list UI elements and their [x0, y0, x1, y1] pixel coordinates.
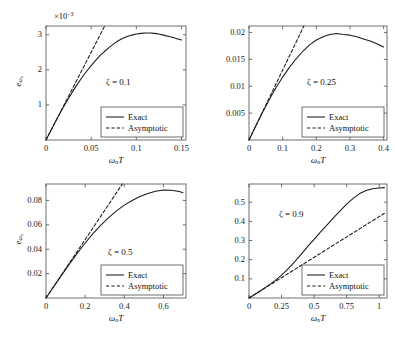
y-tick-label: 0.01: [209, 82, 245, 91]
panel-zeta-0p5: 00.20.40.60.020.040.060.08ωnTeωnζ = 0.5E…: [0, 170, 197, 341]
zeta-annotation: ζ = 0.5: [108, 248, 133, 257]
figure-panel-grid: 00.050.10.15123ωnTeωn×10−3ζ = 0.1ExactAs…: [0, 0, 395, 341]
panel-zeta-0p1: 00.050.10.15123ωnTeωn×10−3ζ = 0.1ExactAs…: [0, 0, 197, 170]
x-axis-label: ωnT: [94, 156, 138, 165]
x-tick-label: 0.6: [149, 302, 177, 311]
y-tick-label: 0.1: [209, 274, 245, 283]
x-tick-label: 0.05: [77, 144, 105, 153]
y-tick-label: 0.5: [209, 198, 245, 207]
x-tick-label: 0.5: [300, 302, 328, 311]
panel-zeta-0p9: 00.250.50.7510.10.20.30.40.5ωnTζ = 0.9Ex…: [197, 170, 395, 341]
x-tick-label: 1: [365, 302, 393, 311]
legend-label-exact: Exact: [128, 113, 147, 122]
legend-label-asymptotic: Asymptotic: [128, 124, 168, 133]
x-tick-label: 0.25: [268, 302, 296, 311]
series-asymptotic: [249, 26, 304, 140]
x-tick-label: 0: [235, 144, 263, 153]
x-tick-label: 0.4: [370, 144, 395, 153]
zeta-annotation: ζ = 0.9: [279, 210, 304, 219]
y-tick-label: 0.08: [6, 196, 42, 205]
y-axis-label: eωn: [14, 222, 24, 256]
y-tick-label: 0.02: [209, 28, 245, 37]
zeta-annotation: ζ = 0.1: [106, 78, 131, 87]
y-tick-label: 0.005: [209, 109, 245, 118]
y-tick-label: 0.3: [209, 236, 245, 245]
zeta-annotation: ζ = 0.25: [307, 78, 336, 87]
x-tick-label: 0.3: [336, 144, 364, 153]
panel-zeta-0p25: 00.10.20.30.40.0050.010.0150.02ωnTζ = 0.…: [197, 0, 395, 170]
x-tick-label: 0.1: [122, 144, 150, 153]
x-tick-label: 0.15: [167, 144, 195, 153]
y-tick-label: 0.4: [209, 217, 245, 226]
x-tick-label: 0.75: [333, 302, 361, 311]
y-axis-label: eωn: [14, 64, 24, 98]
x-tick-label: 0.2: [71, 302, 99, 311]
x-tick-label: 0: [32, 302, 60, 311]
x-tick-label: 0: [235, 302, 263, 311]
y-tick-label: 0.2: [209, 255, 245, 264]
x-tick-label: 0.2: [302, 144, 330, 153]
x-axis-label: ωnT: [296, 314, 340, 323]
y-exponent-label: ×10−3: [54, 12, 73, 21]
x-axis-label: ωnT: [94, 314, 138, 323]
y-tick-label: 0.02: [6, 269, 42, 278]
x-tick-label: 0.1: [269, 144, 297, 153]
y-tick-label: 0.015: [209, 55, 245, 64]
y-tick-label: 3: [6, 30, 42, 39]
legend-label-asymptotic: Asymptotic: [128, 282, 168, 291]
legend-label-exact: Exact: [329, 271, 348, 280]
legend-label-exact: Exact: [329, 113, 348, 122]
legend-label-exact: Exact: [128, 271, 147, 280]
x-axis-label: ωnT: [296, 156, 340, 165]
x-tick-label: 0.4: [110, 302, 138, 311]
legend-label-asymptotic: Asymptotic: [329, 282, 369, 291]
x-tick-label: 0: [32, 144, 60, 153]
legend-label-asymptotic: Asymptotic: [329, 124, 369, 133]
series-asymptotic: [46, 26, 105, 140]
y-tick-label: 1: [6, 100, 42, 109]
